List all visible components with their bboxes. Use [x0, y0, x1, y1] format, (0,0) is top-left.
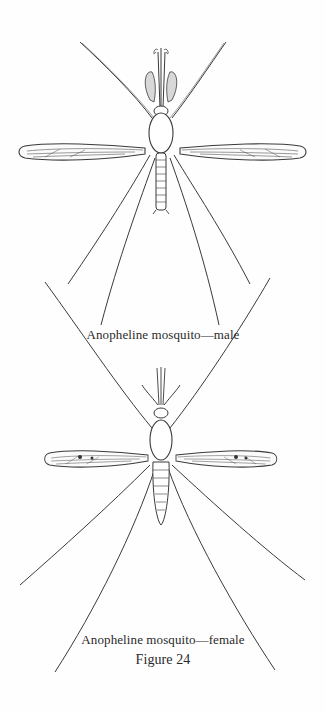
figure-label: Figure 24	[0, 652, 326, 668]
mosquito-illustrations	[0, 0, 326, 712]
male-caption: Anopheline mosquito—male	[0, 327, 326, 343]
male-mosquito-drawing	[19, 42, 306, 325]
female-caption: Anopheline mosquito—female	[0, 632, 326, 648]
document-page: Anopheline mosquito—male Anopheline mosq…	[0, 0, 326, 712]
